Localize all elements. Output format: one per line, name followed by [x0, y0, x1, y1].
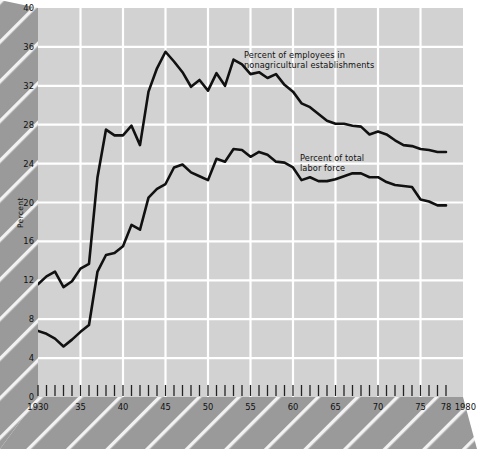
svg-text:65: 65: [330, 402, 341, 412]
series-label-labor-force-line2: labor force: [300, 163, 364, 173]
series-label-nonagricultural-line2: nonagricultural establishments: [244, 60, 374, 70]
svg-text:50: 50: [203, 402, 214, 412]
svg-text:28: 28: [23, 120, 34, 130]
svg-text:0: 0: [29, 392, 34, 402]
svg-text:1930: 1930: [27, 402, 48, 412]
svg-text:16: 16: [23, 236, 34, 246]
svg-text:24: 24: [23, 159, 34, 169]
line-chart: 0481216202428323640 19303540455055606570…: [0, 0, 477, 449]
svg-text:55: 55: [245, 402, 256, 412]
svg-text:60: 60: [288, 402, 299, 412]
svg-text:8: 8: [29, 314, 34, 324]
series-label-labor-force: Percent of total labor force: [300, 153, 364, 174]
svg-text:45: 45: [160, 402, 171, 412]
svg-text:70: 70: [373, 402, 384, 412]
figure-container: 0481216202428323640 19303540455055606570…: [0, 0, 477, 449]
svg-text:35: 35: [75, 402, 86, 412]
svg-text:36: 36: [23, 42, 34, 52]
svg-text:12: 12: [23, 275, 34, 285]
svg-text:1980: 1980: [455, 402, 476, 412]
svg-text:75: 75: [415, 402, 426, 412]
series-label-labor-force-line1: Percent of total: [300, 153, 364, 163]
series-label-nonagricultural: Percent of employees in nonagricultural …: [244, 50, 374, 71]
svg-text:40: 40: [23, 3, 34, 13]
y-axis-title: Percent: [16, 197, 25, 228]
svg-text:40: 40: [118, 402, 129, 412]
svg-text:32: 32: [23, 81, 34, 91]
svg-text:78: 78: [441, 402, 452, 412]
svg-text:4: 4: [29, 353, 34, 363]
series-label-nonagricultural-line1: Percent of employees in: [244, 50, 374, 60]
